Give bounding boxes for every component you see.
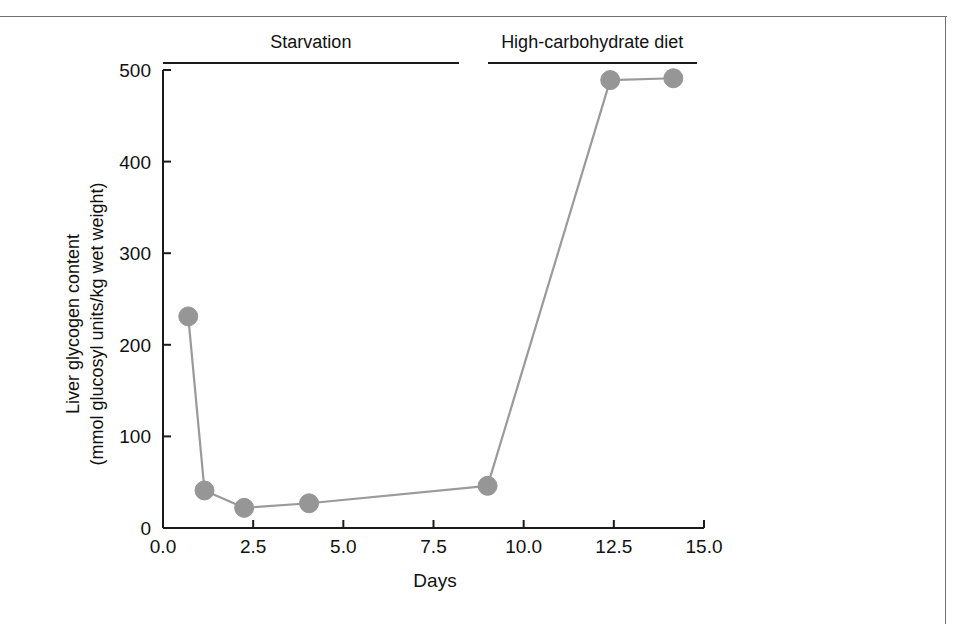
data-point-marker xyxy=(664,69,683,88)
x-tick-label: 2.5 xyxy=(240,536,266,557)
plot-area: 0.02.55.07.510.012.515.00100200300400500 xyxy=(0,0,945,624)
x-tick-label: 10.0 xyxy=(505,536,542,557)
data-point-marker xyxy=(179,307,198,326)
condition-label-high-carbohydrate-diet: High-carbohydrate diet xyxy=(488,32,697,52)
axes-group xyxy=(163,70,704,528)
x-tick-label: 5.0 xyxy=(330,536,356,557)
data-point-marker xyxy=(300,494,319,513)
y-tick-label: 0 xyxy=(140,518,151,539)
data-point-marker xyxy=(478,476,497,495)
condition-rule-high-carbohydrate-diet xyxy=(488,62,697,64)
condition-label-starvation: Starvation xyxy=(163,32,459,52)
data-point-marker xyxy=(601,71,620,90)
x-axis-title: Days xyxy=(0,570,870,592)
y-tick-label: 500 xyxy=(119,60,151,81)
y-axis-title-line-1: Liver glycogen content xyxy=(61,89,85,559)
y-tick-label: 300 xyxy=(119,243,151,264)
x-tick-label: 15.0 xyxy=(686,536,723,557)
figure-liver-glycogen: Starvation High-carbohydrate diet 0.02.5… xyxy=(0,0,945,624)
y-axis-title: Liver glycogen content (mmol glucosyl un… xyxy=(61,89,109,559)
x-tick-label: 7.5 xyxy=(420,536,446,557)
data-series-group xyxy=(179,69,683,518)
condition-rule-starvation xyxy=(163,62,459,64)
data-point-marker xyxy=(195,481,214,500)
tick-marks-group xyxy=(163,70,704,528)
y-tick-label: 200 xyxy=(119,335,151,356)
y-tick-label: 100 xyxy=(119,426,151,447)
y-tick-label: 400 xyxy=(119,152,151,173)
y-axis-title-line-2: (mmol glucosyl units/kg wet weight) xyxy=(85,89,109,559)
x-tick-label: 12.5 xyxy=(595,536,632,557)
x-tick-label: 0.0 xyxy=(150,536,176,557)
page-frame-right-rule xyxy=(945,16,946,624)
data-point-marker xyxy=(235,498,254,517)
series-line-liver-glycogen-content xyxy=(188,78,673,508)
